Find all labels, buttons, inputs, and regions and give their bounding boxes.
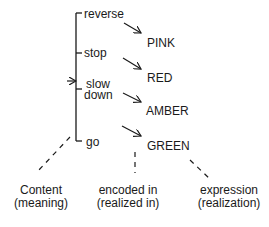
- expression-pink: PINK: [147, 37, 175, 49]
- arrow-icon: [123, 93, 141, 102]
- meaning-stop: stop: [84, 47, 107, 59]
- meaning-down: down: [84, 89, 113, 101]
- expression-amber: AMBER: [146, 105, 189, 117]
- expression-red: RED: [147, 72, 172, 84]
- label-content: Content (meaning): [10, 184, 72, 210]
- meaning-go: go: [86, 136, 99, 148]
- label-content-line2: (meaning): [10, 197, 72, 210]
- arrow-icon: [123, 58, 141, 69]
- arrow-icon: [124, 23, 141, 33]
- arrow-icon: [122, 126, 141, 136]
- label-encoded-line2: (realized in): [92, 197, 164, 210]
- mapping-arrows: [122, 23, 141, 136]
- bracket: [76, 13, 82, 141]
- label-expression-line2: (realization): [192, 197, 266, 210]
- expression-green: GREEN: [147, 140, 190, 152]
- label-expression: expression (realization): [192, 184, 266, 210]
- label-encoded-in: encoded in (realized in): [92, 184, 164, 210]
- meaning-reverse: reverse: [84, 8, 124, 20]
